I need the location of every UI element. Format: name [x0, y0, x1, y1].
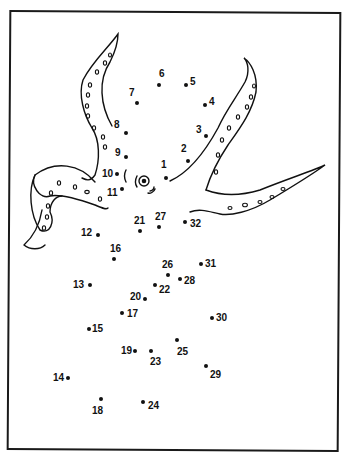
- dot-label: 22: [159, 285, 170, 295]
- dot-label: 13: [73, 280, 84, 290]
- dot-label: 12: [81, 228, 92, 238]
- dot-28: [178, 277, 182, 281]
- dot-label: 17: [127, 309, 138, 319]
- dot-29: [204, 364, 208, 368]
- dot-label: 21: [134, 216, 145, 226]
- dot-9: [124, 155, 128, 159]
- dot-6: [157, 83, 161, 87]
- dot-label: 26: [162, 260, 173, 270]
- dot-26: [166, 273, 170, 277]
- dot-13: [88, 283, 92, 287]
- dot-7: [135, 101, 139, 105]
- dot-label: 20: [130, 292, 141, 302]
- dot-17: [120, 311, 124, 315]
- dot-2: [186, 159, 190, 163]
- dot-22: [153, 283, 157, 287]
- suction-cups: [0, 0, 351, 459]
- dot-27: [157, 225, 161, 229]
- dot-label: 7: [129, 88, 135, 98]
- dot-14: [66, 376, 70, 380]
- dot-label: 16: [110, 244, 121, 254]
- dot-label: 3: [196, 125, 202, 135]
- dot-label: 31: [205, 259, 216, 269]
- dot-label: 8: [114, 120, 120, 130]
- dot-label: 15: [92, 324, 103, 334]
- dot-label: 32: [190, 219, 201, 229]
- dot-label: 25: [177, 347, 188, 357]
- dot-label: 19: [121, 346, 132, 356]
- dot-label: 9: [115, 148, 121, 158]
- dot-label: 14: [53, 373, 64, 383]
- dot-31: [199, 262, 203, 266]
- dot-1: [164, 176, 168, 180]
- dot-10: [115, 172, 119, 176]
- dot-11: [120, 187, 124, 191]
- dot-label: 28: [184, 276, 195, 286]
- dot-label: 5: [190, 77, 196, 87]
- dot-32: [183, 220, 187, 224]
- dot-label: 24: [148, 401, 159, 411]
- dot-5: [184, 83, 188, 87]
- dot-25: [175, 338, 179, 342]
- dot-30: [210, 316, 214, 320]
- dot-18: [99, 397, 103, 401]
- dot-21: [138, 229, 142, 233]
- dot-24: [141, 400, 145, 404]
- dot-label: 4: [209, 97, 215, 107]
- dot-label: 6: [159, 69, 165, 79]
- dot-label: 2: [181, 144, 187, 154]
- dot-label: 23: [150, 357, 161, 367]
- dot-19: [133, 349, 137, 353]
- dot-label: 29: [210, 370, 221, 380]
- dot-16: [112, 257, 116, 261]
- dot-4: [203, 103, 207, 107]
- dot-23: [149, 349, 153, 353]
- dot-15: [87, 327, 91, 331]
- dot-label: 18: [92, 406, 103, 416]
- dot-12: [96, 233, 100, 237]
- dot-20: [143, 297, 147, 301]
- puzzle-canvas: 1234567891011121314151617181920212223242…: [0, 0, 351, 459]
- dot-3: [204, 134, 208, 138]
- dot-label: 30: [216, 313, 227, 323]
- dot-label: 10: [102, 169, 113, 179]
- dot-label: 1: [161, 160, 167, 170]
- dot-label: 27: [155, 212, 166, 222]
- dot-label: 11: [107, 188, 118, 198]
- dot-8: [124, 131, 128, 135]
